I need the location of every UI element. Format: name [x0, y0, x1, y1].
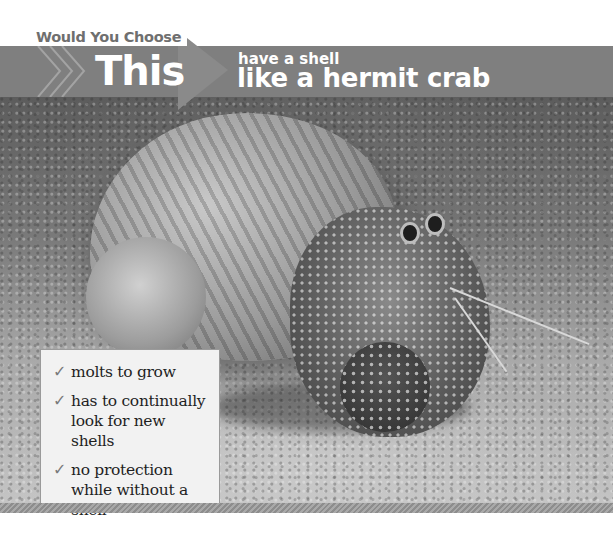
- crab-eye-left: [400, 222, 420, 244]
- chevrons-icon: [30, 46, 100, 97]
- subtitle-big: like a hermit crab: [237, 63, 490, 93]
- fact-text: has to continually look for new shells: [71, 391, 211, 451]
- check-icon: ✓: [53, 391, 71, 411]
- crab-eye-right: [425, 213, 445, 235]
- fact-text: molts to grow: [71, 362, 211, 382]
- check-icon: ✓: [53, 460, 71, 480]
- shell-tip: [86, 237, 206, 357]
- kicker-title: Would You Choose: [36, 28, 187, 46]
- check-icon: ✓: [53, 362, 71, 382]
- crab-claw: [340, 342, 430, 432]
- hatched-divider-strip: [0, 503, 613, 513]
- facts-box: ✓ molts to grow ✓ has to continually loo…: [40, 349, 220, 503]
- fact-item: ✓ has to continually look for new shells: [53, 391, 211, 451]
- fact-item: ✓ molts to grow: [53, 362, 211, 382]
- choice-label: This: [95, 47, 184, 95]
